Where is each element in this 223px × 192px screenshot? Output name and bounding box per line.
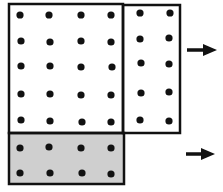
dots-top-right: [136, 9, 173, 124]
top-right-block: [123, 5, 180, 133]
bottom-shaded-block: [9, 133, 124, 184]
arrow-top-icon: [187, 44, 217, 56]
dot-array-diagram: [0, 0, 223, 192]
arrow-bottom-icon: [186, 148, 215, 160]
dots-top-left: [16, 11, 115, 125]
top-left-block: [9, 4, 123, 133]
